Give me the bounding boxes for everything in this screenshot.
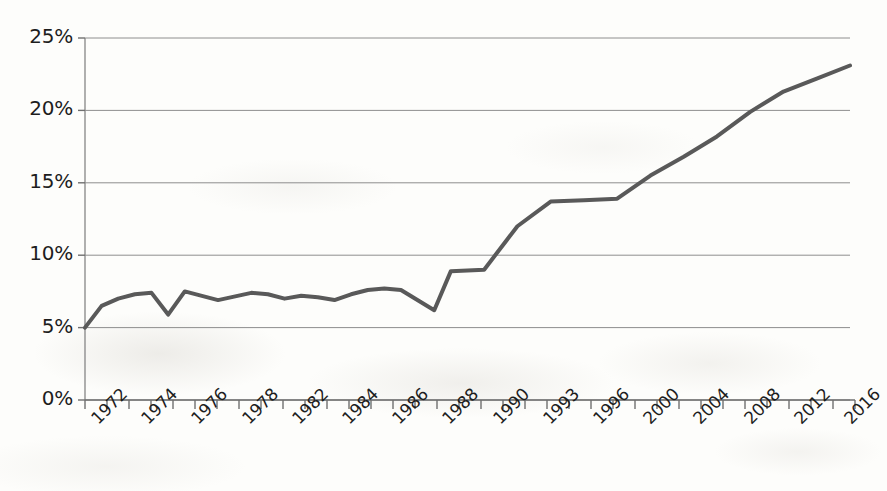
y-axis-tick-label: 10%: [29, 241, 73, 265]
y-axis-tick-label: 5%: [42, 314, 73, 338]
y-axis-tick-label: 20%: [29, 96, 73, 120]
axis-group: [78, 38, 855, 400]
y-axis-tick-label: 25%: [29, 24, 73, 48]
data-line: [85, 66, 850, 328]
chart-container: 0%5%10%15%20%25% 19721974197619781982198…: [0, 0, 887, 491]
y-axis-tick-label: 0%: [42, 386, 73, 410]
y-axis-tick-label: 15%: [29, 169, 73, 193]
data-series-group: [85, 66, 850, 328]
gridlines-group: [85, 38, 850, 400]
